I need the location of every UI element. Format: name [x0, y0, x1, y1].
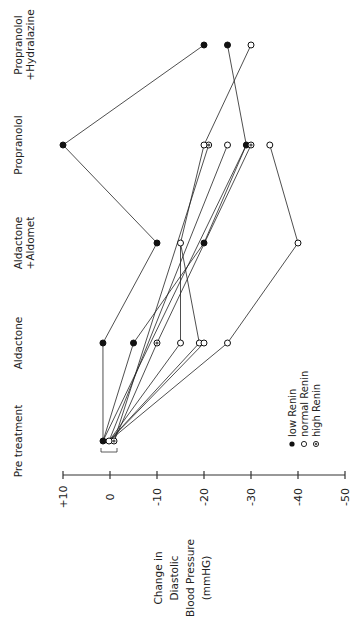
- series-markers: [60, 42, 301, 444]
- chart: +100-10-20-30-40-50 Change inDiastolicBl…: [0, 0, 353, 637]
- marker-low-renin: [60, 142, 66, 148]
- series-line: [109, 145, 228, 441]
- marker-normal-renin: [178, 240, 184, 246]
- series-line: [103, 45, 246, 441]
- marker-normal-renin: [201, 340, 207, 346]
- y-axis-title-line: (mmHG): [200, 556, 212, 601]
- y-tick-label: 0: [104, 494, 117, 501]
- marker-low-renin: [201, 42, 207, 48]
- y-tick-label: +10: [57, 485, 70, 508]
- legend-label: high Renin: [311, 384, 322, 437]
- category-label: Propranolol: [12, 115, 24, 174]
- series-line: [103, 145, 246, 441]
- y-axis-tick-labels: +100-10-20-30-40-50: [57, 485, 352, 508]
- marker-high-renin-fill: [112, 439, 115, 442]
- marker-normal-renin: [225, 340, 231, 346]
- marker-low-renin: [100, 438, 106, 444]
- category-label: Propranolol: [12, 15, 24, 74]
- legend: low Reninnormal Reninhigh Renin: [287, 371, 322, 447]
- marker-normal-renin: [267, 142, 273, 148]
- legend-marker-open: [301, 441, 306, 446]
- marker-normal-renin: [295, 240, 301, 246]
- marker-low-renin: [225, 42, 231, 48]
- series-line: [109, 343, 204, 441]
- y-axis-title-line: Change in: [152, 551, 164, 604]
- marker-low-renin: [100, 340, 106, 346]
- y-tick-label: -30: [245, 488, 258, 506]
- legend-label: normal Renin: [299, 371, 310, 437]
- y-axis-title-line: Blood Pressure: [184, 539, 196, 617]
- series-line: [114, 145, 209, 441]
- y-axis-title: Change inDiastolicBlood Pressure(mmHG): [152, 539, 212, 617]
- category-label: Aldactone: [12, 317, 24, 370]
- y-tick-label: -20: [198, 488, 211, 506]
- marker-low-renin: [131, 340, 137, 346]
- category-labels: Pre treatmentAldactoneAldactone+AldometP…: [12, 9, 36, 477]
- marker-normal-renin: [225, 142, 231, 148]
- y-tick-label: -40: [292, 488, 305, 506]
- legend-label: low Renin: [287, 389, 298, 437]
- marker-high-renin-fill: [207, 143, 210, 146]
- y-axis: [63, 471, 345, 479]
- y-tick-label: -50: [339, 488, 352, 506]
- series-line: [114, 145, 251, 441]
- pretreatment-bracket: [101, 448, 117, 452]
- marker-normal-renin: [201, 142, 207, 148]
- legend-marker-filled: [289, 441, 294, 446]
- series-line: [109, 145, 298, 441]
- category-label: +Aldomet: [24, 217, 36, 270]
- marker-low-renin: [154, 240, 160, 246]
- marker-low-renin: [201, 240, 207, 246]
- marker-normal-renin: [178, 340, 184, 346]
- y-axis-title-line: Diastolic: [168, 555, 180, 600]
- category-label: Pre treatment: [12, 405, 24, 478]
- marker-high-renin-fill: [249, 143, 252, 146]
- marker-normal-renin: [248, 42, 254, 48]
- marker-normal-renin: [106, 438, 112, 444]
- category-label: +Hydralazine: [24, 9, 36, 80]
- marker-high-renin-fill: [155, 341, 158, 344]
- y-tick-label: -10: [151, 488, 164, 506]
- category-label: Aldactone: [12, 217, 24, 270]
